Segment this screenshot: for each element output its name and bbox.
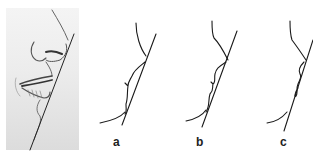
profile-label-c: c <box>280 136 287 148</box>
pencil-sketch-face <box>15 10 74 150</box>
profile-diagram-a <box>100 23 156 125</box>
e-line-c <box>284 40 313 131</box>
profile-label-b: b <box>196 136 203 148</box>
e-line-a <box>122 34 156 125</box>
diagram-canvas <box>0 0 313 159</box>
profile-diagram-b <box>186 21 237 127</box>
profile-label-a: a <box>113 136 120 148</box>
profile-diagram-c <box>267 21 313 131</box>
